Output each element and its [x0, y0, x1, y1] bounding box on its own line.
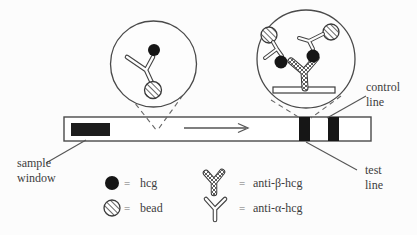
sample-window: [71, 123, 110, 136]
legend-equals-bead: =: [124, 201, 130, 216]
legend-label-hcg: hcg: [140, 176, 157, 191]
test-strip: [64, 117, 371, 141]
bead: [145, 82, 162, 99]
magnifier-right: [257, 10, 355, 108]
anti-beta-hcg-icon: [206, 172, 222, 193]
bead-icon: [104, 200, 120, 216]
hcg-dot-icon: [105, 176, 119, 190]
legend-label-anti-alpha-hcg: anti-α-hcg: [253, 201, 303, 216]
legend-label-anti-beta-hcg: anti-β-hcg: [253, 176, 302, 191]
lateral-flow-assay-diagram: sample window control line test line = h…: [0, 0, 417, 235]
legend-equals-anti-alpha-hcg: =: [239, 201, 245, 216]
sample-window-label: sample window: [17, 156, 56, 186]
control-line-label-line2: line: [366, 95, 400, 110]
sample-window-label-line2: window: [17, 171, 56, 186]
sample-window-label-line1: sample: [17, 156, 56, 171]
bead: [261, 27, 277, 43]
legend-equals-anti-beta-hcg: =: [239, 176, 245, 191]
anti-alpha-hcg-icon: [206, 199, 225, 220]
test-line-label-line1: test: [365, 163, 383, 178]
legend-equals-hcg: =: [124, 176, 130, 191]
magnifier-left: [111, 21, 197, 107]
control-line-label: control line: [366, 80, 400, 110]
test-line-label: test line: [365, 163, 383, 193]
hcg-dot: [275, 56, 288, 69]
legend-label-bead: bead: [140, 201, 163, 216]
control-line-label-line1: control: [366, 80, 400, 95]
test-line-pointer-line: [306, 142, 357, 170]
control-line-band: [328, 117, 339, 141]
test-line-band: [299, 117, 310, 141]
hcg-dot: [307, 50, 320, 63]
test-line-label-line2: line: [365, 178, 383, 193]
bead: [323, 24, 339, 40]
hcg-dot: [148, 44, 160, 56]
diagram-canvas: [0, 0, 417, 235]
